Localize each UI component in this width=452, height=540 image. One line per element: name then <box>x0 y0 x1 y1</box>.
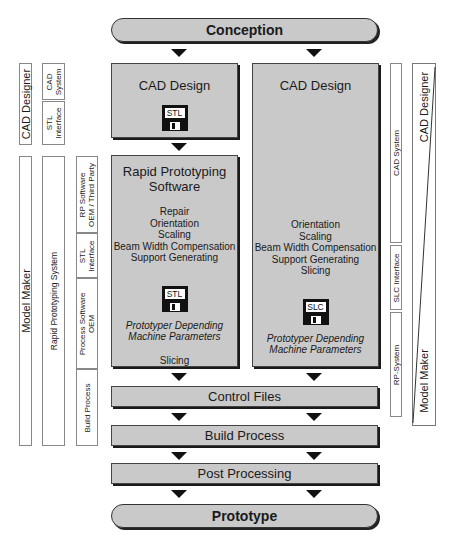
machine-params-line1: Prototyper Depending <box>112 320 237 332</box>
conception-node: Conception <box>111 18 378 42</box>
control-files-bar: Control Files <box>111 386 378 407</box>
role-transition-panel: CAD Designer Model Maker <box>412 63 436 426</box>
model-maker-right-text: Model Maker <box>418 349 430 413</box>
operation-item: Scaling <box>112 229 237 241</box>
post-processing-label: Post Processing <box>198 466 292 481</box>
layer-stl-interface-left: STL Interface <box>42 101 65 145</box>
arrow-down-icon <box>171 49 187 57</box>
operation-item: Orientation <box>253 219 378 231</box>
cad-design-box-right: CAD Design Orientation Scaling Beam Widt… <box>252 63 379 367</box>
arrow-down-icon <box>171 373 187 381</box>
line: OEM <box>87 314 96 332</box>
operation-item: Scaling <box>253 231 378 243</box>
line: System <box>54 68 63 95</box>
arrow-down-icon <box>306 490 322 498</box>
rp-operations-list: Repair Orientation Scaling Beam Width Co… <box>112 206 237 264</box>
role-label-model-maker-left: Model Maker <box>19 156 32 446</box>
build-process-text: Build Process <box>83 383 92 432</box>
arrow-down-icon <box>171 143 187 151</box>
rp-system-text: RP-System <box>392 344 401 384</box>
cad-designer-right-text: CAD Designer <box>418 72 430 142</box>
line: STL <box>45 116 54 131</box>
arrow-down-icon <box>171 452 187 460</box>
floppy-disk-icon: STL <box>162 286 188 312</box>
operation-item: Support Generating <box>253 254 378 266</box>
cad-design-title: CAD Design <box>112 78 237 93</box>
arrow-down-icon <box>306 452 322 460</box>
layer-rp-software: RP Software OEM / Third Party <box>76 156 98 233</box>
prototype-node: Prototype <box>111 504 378 528</box>
build-process-bar: Build Process <box>111 425 378 446</box>
control-files-label: Control Files <box>208 389 281 404</box>
file-format-label: SLC <box>306 302 326 312</box>
operation-item: Orientation <box>112 218 237 230</box>
prototype-label: Prototype <box>212 508 277 524</box>
build-process-label: Build Process <box>205 428 284 443</box>
rapid-prototyping-system-text: Rapid Prototyping System <box>49 252 59 350</box>
line: Process Software <box>78 292 87 355</box>
rp-software-text: RP Software OEM / Third Party <box>78 163 96 227</box>
role-label-cad-designer-left: CAD Designer <box>19 63 32 145</box>
machine-params-line2: Machine Parameters <box>112 331 237 343</box>
machine-params-line2: Machine Parameters <box>253 344 378 356</box>
layer-cad-system-right: CAD System <box>390 63 402 243</box>
arrow-down-icon <box>306 49 322 57</box>
line: Interface <box>54 107 63 138</box>
cad-system-text: CAD System <box>392 130 401 176</box>
file-format-label: STL <box>165 289 185 299</box>
cad-design-box-left: CAD Design STL <box>111 63 238 138</box>
operation-item: Support Generating <box>112 252 237 264</box>
machine-params-line1: Prototyper Depending <box>253 333 378 345</box>
operation-item: Beam Width Compensation <box>253 242 378 254</box>
layer-slc-interface: SLC Interface <box>390 245 402 310</box>
arrow-down-icon <box>171 413 187 421</box>
arrow-down-icon <box>306 373 322 381</box>
stl-interface-text: STL Interface <box>45 107 63 138</box>
floppy-disk-icon: SLC <box>303 299 329 325</box>
line: STL <box>78 248 87 263</box>
machine-parameters-note: Prototyper Depending Machine Parameters <box>253 333 378 356</box>
operation-item: Beam Width Compensation <box>112 241 237 253</box>
file-format-label: STL <box>165 108 185 118</box>
layer-rapid-prototyping-system: Rapid Prototyping System <box>42 156 65 446</box>
post-processing-bar: Post Processing <box>111 463 378 484</box>
layer-process-software: Process Software OEM <box>76 278 98 369</box>
line: Interface <box>87 240 96 271</box>
model-maker-text: Model Maker <box>20 269 32 333</box>
cad-system-text: CAD System <box>45 68 63 95</box>
cad-designer-text: CAD Designer <box>20 69 32 139</box>
machine-parameters-note: Prototyper Depending Machine Parameters <box>112 320 237 343</box>
line: RP Software <box>78 172 87 217</box>
slc-interface-text: SLC Interface <box>392 253 401 302</box>
stl-interface-text: STL Interface <box>78 240 96 271</box>
process-software-text: Process Software OEM <box>78 292 96 355</box>
arrow-down-icon <box>171 490 187 498</box>
rp-software-title: Rapid Prototyping Software <box>112 164 237 194</box>
slicing-step: Slicing <box>112 355 237 367</box>
right-operations-list: Orientation Scaling Beam Width Compensat… <box>253 219 378 277</box>
layer-rp-system: RP-System <box>390 312 402 417</box>
cad-design-title: CAD Design <box>253 78 378 93</box>
rp-software-box: Rapid Prototyping Software Repair Orient… <box>111 155 238 367</box>
floppy-disk-icon: STL <box>162 105 188 131</box>
operation-item: Slicing <box>253 265 378 277</box>
layer-cad-system-left: CAD System <box>42 63 65 100</box>
line: OEM / Third Party <box>87 163 96 227</box>
arrow-down-icon <box>306 413 322 421</box>
layer-build-process-left: Build Process <box>76 369 98 446</box>
layer-stl-interface-2: STL Interface <box>76 233 98 278</box>
conception-label: Conception <box>206 22 283 38</box>
operation-item: Repair <box>112 206 237 218</box>
line: CAD <box>45 73 54 90</box>
